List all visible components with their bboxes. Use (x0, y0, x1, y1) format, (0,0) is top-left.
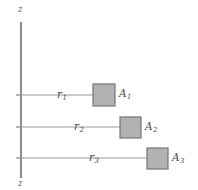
figure-canvas: z z r1 A1 r2 A2 r3 A3 (0, 0, 198, 190)
radius-label-r2-subscript: 2 (79, 126, 84, 134)
radius-label-r2: r2 (74, 121, 84, 132)
area-label-a3: A3 (172, 152, 184, 163)
radius-label-r3-subscript: 3 (94, 157, 99, 165)
area-label-a1: A1 (119, 88, 131, 99)
area-label-a1-subscript: 1 (127, 93, 132, 101)
radius-label-r1-subscript: 1 (62, 94, 67, 102)
radius-label-r1: r1 (57, 89, 67, 100)
area-label-a1-base: A (119, 87, 127, 99)
area-label-a2: A2 (145, 121, 157, 132)
axis-bottom-label: z (18, 179, 22, 188)
area-label-a2-subscript: 2 (153, 126, 158, 134)
area-label-a2-base: A (145, 120, 153, 132)
diagram-svg (0, 0, 198, 190)
area-patch-a2 (120, 117, 141, 138)
area-patch-a1 (93, 84, 115, 106)
area-label-a3-base: A (172, 151, 180, 163)
axis-top-label: z (18, 5, 22, 14)
area-patch-a3 (147, 148, 168, 169)
radius-label-r3: r3 (89, 152, 99, 163)
area-label-a3-subscript: 3 (180, 157, 185, 165)
